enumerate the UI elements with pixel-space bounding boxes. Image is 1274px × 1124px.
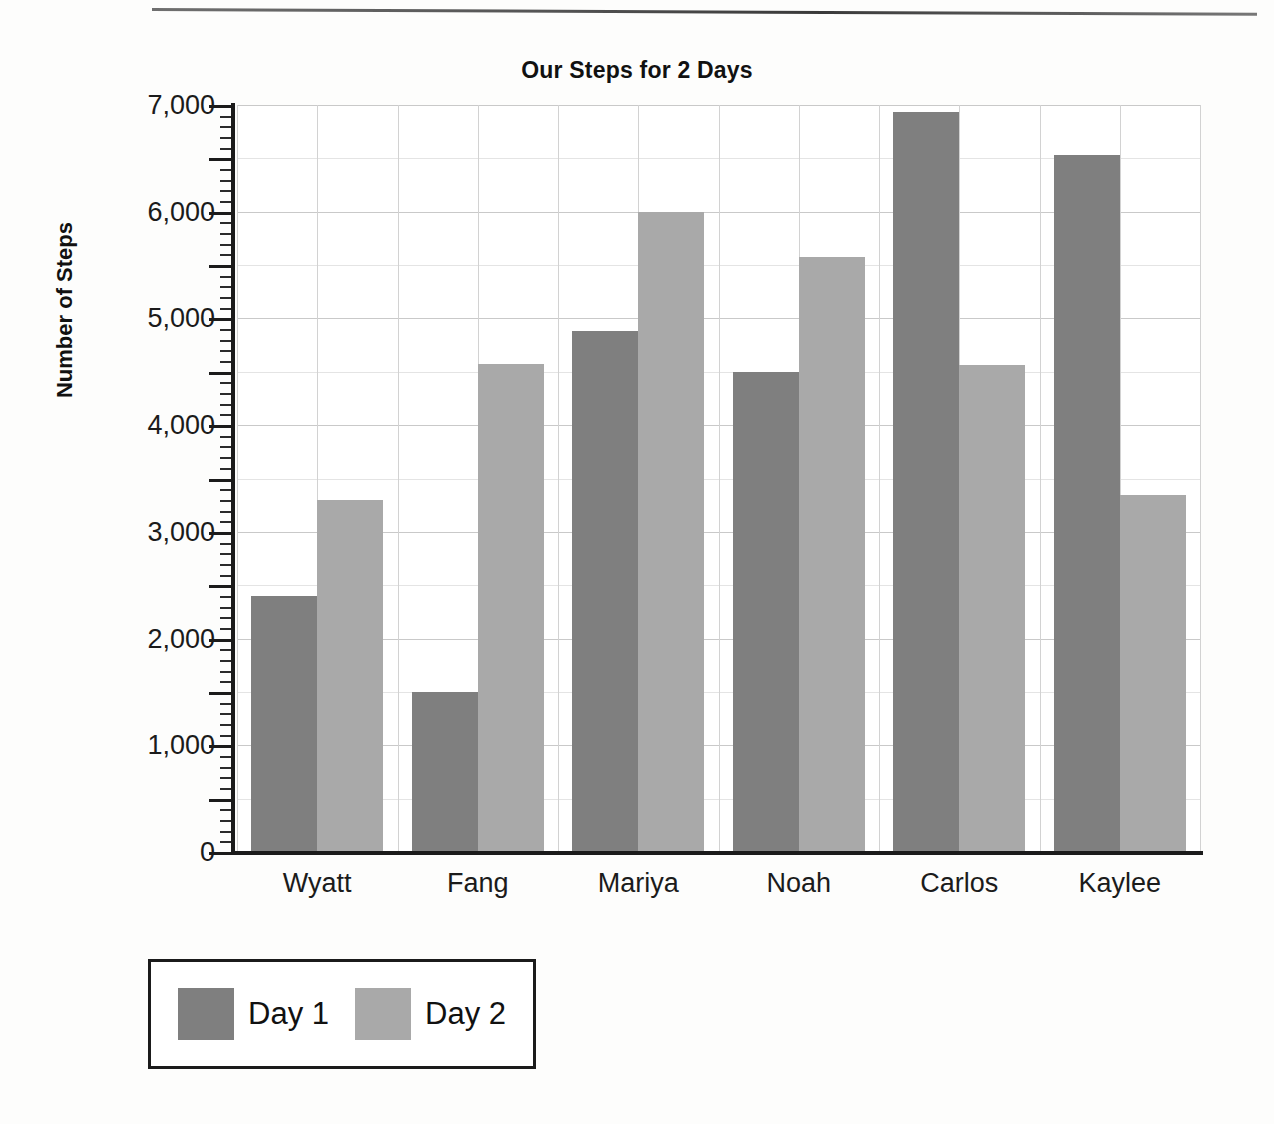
y-axis-tick-minor (220, 809, 231, 811)
y-axis-tick-minor (220, 628, 231, 630)
chart-legend: Day 1Day 2 (148, 959, 536, 1069)
gridline-vertical (719, 105, 720, 852)
y-axis-tick-minor (220, 201, 231, 203)
y-axis-tick-label: 5,000 (75, 303, 215, 334)
y-axis-tick-minor (220, 607, 231, 609)
x-axis-label-fang: Fang (388, 868, 568, 899)
y-axis-tick-label: 1,000 (75, 730, 215, 761)
gridline-vertical (879, 105, 880, 852)
y-axis-tick-minor (220, 788, 231, 790)
y-axis-tick-minor (220, 233, 231, 235)
chart-title: Our Steps for 2 Days (0, 57, 1274, 84)
legend-label: Day 1 (248, 996, 329, 1032)
bar-day-2-wyatt (317, 500, 383, 852)
y-axis-tick-minor (220, 350, 231, 352)
y-axis-tick-label: 2,000 (75, 623, 215, 654)
y-axis-tick-minor (220, 521, 231, 523)
bar-day-2-fang (478, 364, 544, 852)
x-axis-label-kaylee: Kaylee (1030, 868, 1210, 899)
y-axis-tick-minor (220, 414, 231, 416)
y-axis-tick-minor (220, 254, 231, 256)
legend-swatch-icon (178, 988, 234, 1040)
y-axis-tick-label: 3,000 (75, 516, 215, 547)
y-axis-tick-minor (220, 276, 231, 278)
x-axis-label-carlos: Carlos (869, 868, 1049, 899)
plot-area (237, 105, 1200, 852)
bar-day-2-mariya (638, 212, 704, 852)
y-axis-tick-label: 6,000 (75, 196, 215, 227)
y-axis-tick-minor (220, 660, 231, 662)
x-axis-line (231, 851, 1203, 855)
y-axis-tick-minor (220, 137, 231, 139)
y-axis-tick-minor (220, 575, 231, 577)
y-axis-tick-minor (220, 735, 231, 737)
y-axis-tick-minor (220, 148, 231, 150)
bar-day-1-fang (412, 692, 478, 852)
y-axis-tick-minor (220, 756, 231, 758)
y-axis-tick-minor (220, 222, 231, 224)
y-axis-tick-minor (220, 703, 231, 705)
y-axis-tick-label: 7,000 (75, 90, 215, 121)
bar-day-2-kaylee (1120, 495, 1186, 852)
y-axis-tick-minor (220, 564, 231, 566)
y-axis-tick-minor (220, 126, 231, 128)
y-axis-tick-minor (220, 831, 231, 833)
y-axis-tick-minor (220, 553, 231, 555)
bar-chart-figure: Our Steps for 2 Days Number of Steps 01,… (0, 0, 1274, 1124)
y-axis-tick-minor (220, 617, 231, 619)
y-axis-tick-minor (220, 169, 231, 171)
y-axis-tick-minor (220, 446, 231, 448)
y-axis-tick-minor (220, 436, 231, 438)
y-axis-tick-minor (220, 489, 231, 491)
legend-label: Day 2 (425, 996, 506, 1032)
bar-day-1-kaylee (1054, 155, 1120, 852)
y-axis-tick-minor (220, 244, 231, 246)
y-axis-tick-minor (220, 457, 231, 459)
y-axis-tick-minor (220, 286, 231, 288)
y-axis-tick-minor (220, 713, 231, 715)
y-axis-tick-minor (220, 777, 231, 779)
y-axis-tick-minor (220, 180, 231, 182)
y-axis-tick-labels: 01,0002,0003,0004,0005,0006,0007,000 (75, 105, 215, 852)
y-axis-tick-minor (220, 404, 231, 406)
y-axis-tick-minor (220, 500, 231, 502)
y-axis-tick-label: 0 (75, 837, 215, 868)
gridline-vertical (558, 105, 559, 852)
y-axis-tick-minor (220, 297, 231, 299)
x-axis-label-wyatt: Wyatt (227, 868, 407, 899)
gridline-vertical (237, 105, 238, 852)
y-axis-line (231, 103, 235, 855)
y-axis-tick-minor (220, 543, 231, 545)
x-axis-label-mariya: Mariya (548, 868, 728, 899)
legend-swatch-icon (355, 988, 411, 1040)
y-axis-tick-minor (220, 820, 231, 822)
gridline-vertical (1040, 105, 1041, 852)
bar-day-1-carlos (893, 112, 959, 852)
y-axis-tick-minor (220, 468, 231, 470)
y-axis-tick-minor (220, 767, 231, 769)
y-axis-tick-minor (220, 841, 231, 843)
gridline-vertical (1200, 105, 1201, 852)
y-axis-tick-minor (220, 596, 231, 598)
y-axis-tick-minor (220, 116, 231, 118)
y-axis-tick-minor (220, 724, 231, 726)
y-axis-tick-minor (220, 681, 231, 683)
y-axis-tick-minor (220, 382, 231, 384)
y-axis-tick-minor (220, 190, 231, 192)
y-axis-tick-minor (220, 393, 231, 395)
y-axis-tick-label: 4,000 (75, 410, 215, 441)
y-axis-tick-minor (220, 671, 231, 673)
legend-item-day-1: Day 1 (178, 988, 329, 1040)
y-axis-tick-minor (220, 649, 231, 651)
legend-item-day-2: Day 2 (355, 988, 506, 1040)
bar-day-2-noah (799, 257, 865, 852)
bar-day-1-wyatt (251, 596, 317, 852)
bar-day-2-carlos (959, 365, 1025, 852)
y-axis-tick-minor (220, 511, 231, 513)
x-axis-label-noah: Noah (709, 868, 889, 899)
y-axis-tick-minor (220, 361, 231, 363)
y-axis-tick-minor (220, 308, 231, 310)
y-axis-tick-minor (220, 340, 231, 342)
gridline-vertical (398, 105, 399, 852)
bar-day-1-noah (733, 372, 799, 852)
